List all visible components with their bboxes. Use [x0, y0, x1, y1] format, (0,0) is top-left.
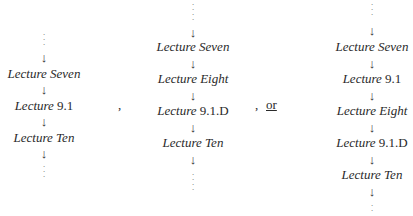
comma-separator: , [118, 98, 121, 112]
down-arrow-icon: ↓ [123, 153, 263, 167]
down-arrow-icon: ↓ [123, 57, 263, 71]
lecture-node: Lecture 9.1 [302, 72, 413, 86]
down-arrow-icon: ↓ [0, 83, 114, 97]
lecture-node: Lecture Seven [302, 40, 413, 54]
down-arrow-icon: ↓ [302, 89, 413, 103]
vertical-ellipsis-icon: ···· [123, 172, 263, 192]
lecture-node: Lecture Ten [0, 131, 114, 145]
down-arrow-icon: ↓ [302, 24, 413, 38]
down-arrow-icon: ↓ [302, 57, 413, 71]
down-arrow-icon: ↓ [302, 153, 413, 167]
lecture-node: Lecture Ten [302, 168, 413, 182]
down-arrow-icon: ↓ [0, 115, 114, 129]
down-arrow-icon: ↓ [0, 147, 114, 161]
down-arrow-icon: ↓ [123, 26, 263, 40]
lecture-node: Lecture 9.1 [0, 99, 114, 113]
vertical-ellipsis-icon: ··· [302, 2, 413, 17]
comma-separator: , [255, 98, 258, 112]
lecture-node: Lecture Seven [123, 40, 263, 54]
lecture-node: Lecture 9.1.D [123, 104, 263, 118]
vertical-ellipsis-icon: ··· [0, 32, 114, 47]
down-arrow-icon: ↓ [302, 185, 413, 199]
lecture-node: Lecture Eight [123, 72, 263, 86]
vertical-ellipsis-icon: ···· [123, 2, 263, 22]
sequence-diagram-1: ··· ↓ Lecture Seven ↓ Lecture 9.1 ↓ Lect… [0, 0, 114, 216]
down-arrow-icon: ↓ [123, 89, 263, 103]
lecture-node: Lecture Ten [123, 136, 263, 150]
vertical-ellipsis-icon: ··· [0, 164, 114, 179]
down-arrow-icon: ↓ [302, 121, 413, 135]
lecture-node: Lecture Eight [302, 104, 413, 118]
down-arrow-icon: ↓ [123, 121, 263, 135]
down-arrow-icon: ↓ [0, 51, 114, 65]
lecture-node: Lecture 9.1.D [302, 136, 413, 150]
vertical-ellipsis-icon: ·· [302, 203, 413, 213]
sequence-diagram-3: ··· ↓ Lecture Seven ↓ Lecture 9.1 ↓ Lect… [302, 0, 413, 216]
sequence-diagram-2: ···· ↓ Lecture Seven ↓ Lecture Eight ↓ L… [123, 0, 263, 216]
or-conjunction: or [266, 98, 277, 112]
lecture-node: Lecture Seven [0, 67, 114, 81]
